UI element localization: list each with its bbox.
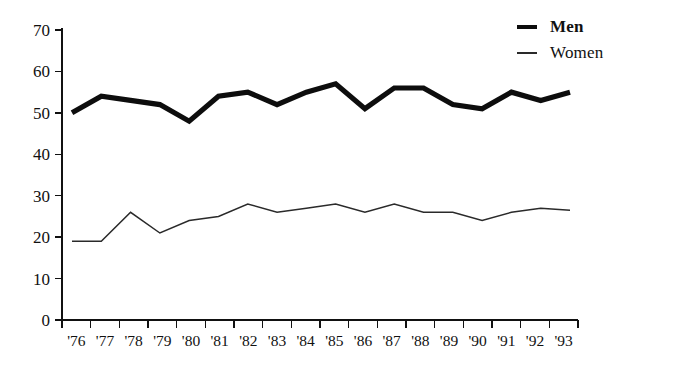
- x-tick-label: '82: [239, 332, 257, 349]
- x-tick-label: '83: [268, 332, 287, 349]
- data-series-women: [72, 204, 570, 241]
- y-tick-label: 0: [42, 311, 51, 330]
- line-chart: 010203040506070 '76'77'78'79'80'81'82'83…: [0, 0, 682, 377]
- x-tick-label: '77: [96, 332, 115, 349]
- x-tick-label: '76: [67, 332, 86, 349]
- x-tick-label: '84: [297, 332, 316, 349]
- x-tick-label: '79: [153, 332, 172, 349]
- chart-legend: Men Women: [516, 14, 666, 66]
- x-tick-label: '93: [555, 332, 574, 349]
- legend-label-men: Men: [550, 17, 584, 37]
- data-series-men: [72, 84, 570, 121]
- y-tick-label: 20: [33, 228, 50, 247]
- y-axis: 010203040506070: [33, 21, 62, 330]
- legend-swatch-women-icon: [516, 52, 538, 54]
- legend-item-men[interactable]: Men: [516, 14, 666, 40]
- x-tick-label: '86: [354, 332, 373, 349]
- legend-label-women: Women: [550, 43, 603, 63]
- x-tick-label: '91: [497, 332, 515, 349]
- x-tick-label: '78: [125, 332, 144, 349]
- x-tick-label: '90: [469, 332, 488, 349]
- data-series-group: [72, 84, 570, 241]
- y-tick-label: 60: [33, 62, 50, 81]
- x-axis: '76'77'78'79'80'81'82'83'84'85'86'87'88'…: [62, 320, 578, 349]
- legend-item-women[interactable]: Women: [516, 40, 666, 66]
- y-tick-label: 30: [33, 187, 50, 206]
- x-tick-label: '88: [411, 332, 430, 349]
- x-tick-label: '85: [325, 332, 344, 349]
- x-tick-label: '81: [211, 332, 229, 349]
- x-tick-label: '92: [526, 332, 544, 349]
- x-tick-label: '87: [383, 332, 402, 349]
- legend-swatch-men-icon: [516, 25, 538, 30]
- x-tick-label: '89: [440, 332, 459, 349]
- y-tick-label: 40: [33, 145, 50, 164]
- y-tick-label: 70: [33, 21, 50, 40]
- y-tick-label: 50: [33, 104, 50, 123]
- x-tick-label: '80: [182, 332, 201, 349]
- y-tick-label: 10: [33, 270, 50, 289]
